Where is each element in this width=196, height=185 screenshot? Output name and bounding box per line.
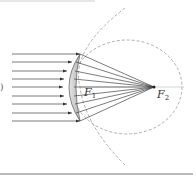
label-f2-main: F	[157, 88, 165, 101]
edge-mark: )	[0, 82, 4, 92]
focus-point-f2	[153, 86, 156, 89]
label-f1-sub: 1	[92, 92, 96, 100]
label-f1: F1	[84, 86, 96, 100]
label-f1-main: F	[84, 86, 92, 99]
label-f2: F2	[157, 88, 169, 102]
lens	[69, 54, 80, 121]
label-f2-sub: 2	[165, 94, 169, 102]
